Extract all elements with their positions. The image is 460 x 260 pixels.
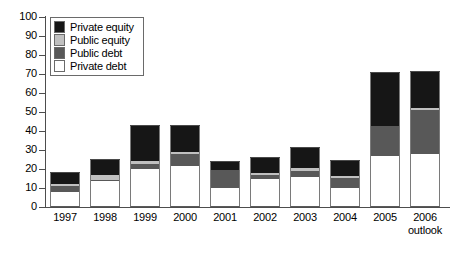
y-axis-tick-label-text: 10 [1,182,37,193]
y-axis-tick-label-text: 70 [1,68,37,79]
bar-top-cap [50,172,80,173]
bar-segment-public-debt[interactable] [410,110,440,154]
bar-segment-private-debt[interactable] [330,188,360,207]
legend-item-private-debt[interactable]: Private debt [54,59,140,72]
bar-segment-private-equity[interactable] [330,161,360,175]
bar-segment-private-equity[interactable] [370,73,400,126]
y-axis-tick-label: 0 [0,201,37,212]
y-axis-tick-label: 10 [0,182,37,193]
bar-segment-private-debt[interactable] [90,181,120,207]
bar-segment-private-debt[interactable] [50,192,80,207]
y-axis-tick [39,17,45,18]
y-axis-tick-label-text: 40 [1,125,37,136]
y-axis-tick-label: 30 [0,144,37,155]
y-axis-tick [39,74,45,75]
y-axis-tick [39,131,45,132]
x-axis-label-text: 1997 [53,211,77,223]
chart-legend: Private equityPublic equityPublic debtPr… [50,17,144,76]
y-axis-tick-label: 70 [0,68,37,79]
x-axis-label-text: 2000 [173,211,197,223]
legend-item-public-equity[interactable]: Public equity [54,33,140,46]
bar-segment-public-debt[interactable] [170,154,200,166]
bar-segment-public-debt[interactable] [210,170,240,188]
bar-segment-public-equity[interactable] [410,108,440,110]
legend-item-public-debt[interactable]: Public debt [54,46,140,59]
bar-segment-private-equity[interactable] [210,162,240,170]
x-axis-label-text: 1998 [93,211,117,223]
bar-segment-private-equity[interactable] [410,72,440,108]
x-axis-label-text: 2002 [253,211,277,223]
bar-top-cap [370,72,400,73]
bar-segment-private-debt[interactable] [290,177,320,207]
bar-segment-private-debt[interactable] [130,169,160,207]
bar-segment-private-debt[interactable] [170,166,200,207]
bar-segment-private-equity[interactable] [130,126,160,161]
bar-segment-public-equity[interactable] [250,173,280,175]
bar-segment-public-equity[interactable] [330,176,360,178]
legend-item-label: Public equity [70,34,130,46]
x-axis-label-text: 2003 [293,211,317,223]
legend-swatch-icon [54,34,65,46]
legend-swatch-icon [54,21,65,33]
y-axis-tick [39,169,45,170]
bar-top-cap [290,147,320,148]
bar-top-cap [330,160,360,161]
y-axis-tick-label-text: 90 [1,30,37,41]
bar-top-cap [250,157,280,158]
x-axis-label-2006: 2006outlook [398,211,452,237]
bar-segment-public-debt[interactable] [250,175,280,180]
bar-segment-public-debt[interactable] [330,178,360,188]
x-axis-sublabel-text: outlook [398,224,452,237]
bar-segment-private-debt[interactable] [410,154,440,207]
bar-segment-public-debt[interactable] [90,180,120,181]
bar-segment-private-equity[interactable] [290,148,320,168]
bar-segment-private-equity[interactable] [50,173,80,184]
y-axis-tick-label: 100 [0,11,37,22]
bar-top-cap [130,125,160,126]
y-axis-tick [39,188,45,189]
bar-segment-public-debt[interactable] [50,186,80,192]
y-axis-tick [39,207,45,208]
y-axis-tick-label-text: 30 [1,144,37,155]
x-axis-label-text: 2006 [413,211,437,223]
bar-segment-public-equity[interactable] [290,168,320,171]
bar-top-cap [90,159,120,160]
y-axis-tick-label: 60 [0,87,37,98]
y-axis-tick-label-text: 50 [1,106,37,117]
bar-segment-private-equity[interactable] [250,158,280,173]
y-axis-tick [39,93,45,94]
bar-top-cap [210,161,240,162]
legend-swatch-icon [54,60,65,72]
legend-item-private-equity[interactable]: Private equity [54,20,140,33]
y-axis-tick [39,36,45,37]
bar-segment-public-equity[interactable] [90,175,120,181]
bar-segment-private-equity[interactable] [170,126,200,152]
bar-segment-public-equity[interactable] [50,184,80,186]
bar-segment-public-debt[interactable] [130,164,160,169]
y-axis-tick-label: 80 [0,49,37,60]
x-axis-label-text: 1999 [133,211,157,223]
x-axis-label-text: 2001 [213,211,237,223]
y-axis-tick-label: 50 [0,106,37,117]
bar-segment-private-debt[interactable] [370,156,400,207]
bar-segment-public-debt[interactable] [370,126,400,155]
legend-swatch-icon [54,47,65,59]
bar-segment-private-debt[interactable] [250,179,280,207]
y-axis-tick-label-text: 100 [1,11,37,22]
y-axis-tick [39,150,45,151]
y-axis-tick-label-text: 20 [1,163,37,174]
bar-top-cap [170,125,200,126]
legend-item-label: Public debt [70,47,122,59]
stacked-bar-chart: 0102030405060708090100 19971998199920002… [0,0,460,260]
y-axis-tick-label: 20 [0,163,37,174]
bar-segment-public-debt[interactable] [290,171,320,177]
bar-segment-private-equity[interactable] [90,160,120,174]
x-axis-label-text: 2005 [373,211,397,223]
bar-top-cap [410,71,440,72]
bar-segment-public-equity[interactable] [170,152,200,154]
legend-item-label: Private equity [70,21,134,33]
x-axis-label-text: 2004 [333,211,357,223]
bar-segment-private-debt[interactable] [210,188,240,207]
bar-segment-public-equity[interactable] [130,161,160,164]
y-axis-tick-label-text: 0 [1,201,37,212]
